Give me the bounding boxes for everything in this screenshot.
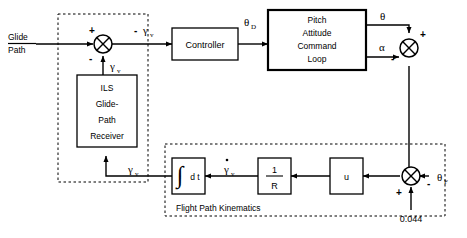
- integrator-dt-label: d t: [190, 172, 200, 182]
- pitch-loop-label-line4: Loop: [308, 54, 327, 64]
- ils-receiver-label-line4: Receiver: [90, 131, 124, 141]
- ils-receiver-label-line1: ILS: [101, 83, 114, 93]
- error-junction-plus-sign: +: [89, 25, 95, 36]
- gamma-v-feedback-top-subscript: v: [117, 67, 121, 75]
- controller-label: Controller: [185, 40, 224, 50]
- pitch-loop-label-line2: Attitude: [303, 28, 332, 38]
- pitch-loop-label-line1: Pitch: [308, 15, 327, 25]
- theta-alpha-junction-minus-sign: -: [391, 53, 394, 64]
- bias-value-label: 0.044: [400, 214, 423, 224]
- wire-theta-to-sum: [366, 25, 409, 33]
- integral-symbol: ∫: [175, 162, 185, 190]
- u-block-label: u: [344, 172, 349, 182]
- gamma-v-error-minus-sign: -: [134, 25, 137, 36]
- one-over-r-denominator: R: [271, 181, 278, 191]
- theta-f-label: θ: [437, 171, 442, 183]
- gamma-v-feedback-bottom-label: γ: [127, 163, 133, 175]
- error-junction-minus-sign: -: [89, 53, 92, 64]
- bias-junction-minus-sign: -: [427, 178, 430, 189]
- theta-alpha-summing-junction[interactable]: [400, 39, 418, 57]
- wire-integrator-to-ils-receiver: [106, 156, 172, 176]
- theta-label: θ: [380, 10, 385, 22]
- theta-d-subscript: D: [251, 23, 256, 31]
- gamma-v-error-subscript: v: [150, 31, 154, 39]
- gamma-v-error-label: γ: [142, 24, 148, 36]
- error-summing-junction[interactable]: [94, 35, 112, 53]
- theta-d-label: θ: [244, 16, 249, 28]
- pitch-loop-label-line3: Command: [297, 41, 336, 51]
- glide-path-label-line1: Glide: [8, 32, 28, 42]
- theta-f-subscript: F: [444, 178, 448, 186]
- gamma-v-feedback-top-label: γ: [109, 60, 115, 72]
- wire-theta-f-feedback-down: [409, 66, 422, 176]
- bias-summing-junction[interactable]: [402, 167, 420, 185]
- gamma-v-dot-subscript: v: [231, 170, 235, 178]
- ils-receiver-label-line3: Path: [98, 115, 116, 125]
- alpha-label: α: [379, 41, 385, 53]
- theta-alpha-junction-plus-sign: +: [420, 29, 426, 40]
- one-over-r-numerator: 1: [272, 165, 277, 175]
- block-diagram-svg: Controller Pitch Attitude Command Loop I…: [0, 0, 467, 238]
- bias-junction-plus-sign: +: [396, 187, 402, 198]
- gamma-v-dot-label: γ: [223, 163, 229, 175]
- glide-path-label-line2: Path: [8, 45, 26, 55]
- flight-path-kinematics-label: Flight Path Kinematics: [176, 203, 261, 213]
- gamma-v-dot-overdot: [226, 159, 229, 162]
- block-diagram-canvas: Controller Pitch Attitude Command Loop I…: [0, 0, 467, 238]
- gamma-v-feedback-bottom-subscript: v: [135, 170, 139, 178]
- ils-receiver-label-line2: Glide-: [96, 99, 119, 109]
